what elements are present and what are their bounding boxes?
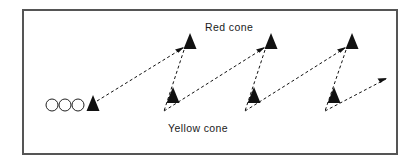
yellow-cone-label: Yellow cone xyxy=(168,122,228,134)
player-circle-1 xyxy=(46,99,58,111)
player-queue xyxy=(46,99,84,111)
drill-canvas: Red cone Yellow cone xyxy=(0,0,415,164)
drill-diagram: Red cone Yellow cone xyxy=(0,0,415,164)
player-circle-3 xyxy=(72,99,84,111)
red-cone-label: Red cone xyxy=(205,21,253,33)
player-circle-2 xyxy=(59,99,71,111)
